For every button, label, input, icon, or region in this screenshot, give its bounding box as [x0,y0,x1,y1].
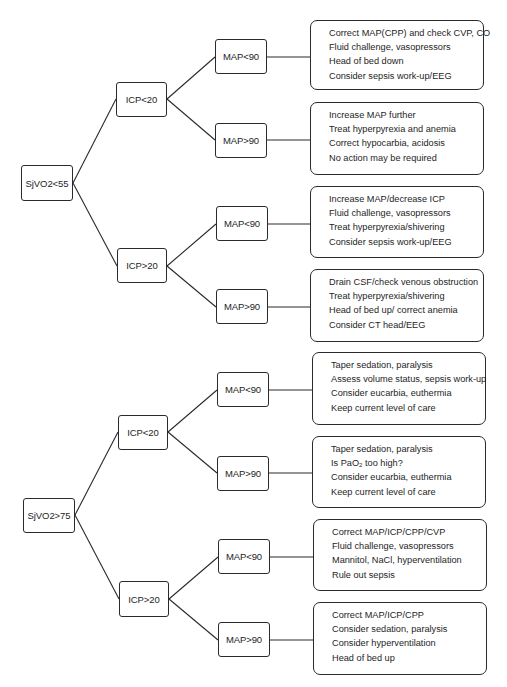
action-item: Consider sedation, paralysis [332,622,486,636]
node-label: MAP>90 [223,135,259,146]
node-label: ICP<20 [126,94,157,105]
root-node-sjvo2-low: SjVO2<55 [21,165,73,201]
action-box: Correct MAP(CPP) and check CVP, CO Fluid… [310,20,484,90]
node-map-low: MAP<90 [216,206,268,241]
action-item: Taper sedation, paralysis [331,442,485,456]
node-label: MAP<90 [226,551,262,562]
action-item: Consider eucarbia, euthermia [331,386,485,400]
action-item: Assess volume status, sepsis work-up [331,372,485,386]
node-label: ICP>20 [128,594,159,605]
node-label: SjVO2>75 [28,510,71,521]
action-item: Head of bed up/ correct anemia [329,303,483,317]
action-item: Consider sepsis work-up/EEG [329,69,483,83]
action-box: Correct MAP/ICP/CPP Consider sedation, p… [313,602,487,675]
action-item-pao2: Is PaO2 too high? [331,456,485,470]
action-item: Consider sepsis work-up/EEG [329,235,483,249]
node-map-high: MAP>90 [218,622,270,657]
action-box: Taper sedation, paralysis Is PaO2 too hi… [312,436,486,508]
node-label: MAP>90 [224,301,260,312]
node-label: MAP<90 [223,51,259,62]
action-item: No action may be required [329,151,483,165]
action-item: Keep current level of care [331,485,485,499]
action-item: Mannitol, NaCl, hyperventilation [332,553,486,567]
node-map-high: MAP>90 [216,289,268,324]
node-map-low: MAP<90 [217,372,269,407]
action-item: Increase MAP/decrease ICP [329,192,483,206]
node-map-low: MAP<90 [215,39,267,74]
action-item: Correct MAP/ICP/CPP [332,608,486,622]
action-item: Rule out sepsis [332,568,486,582]
node-label: MAP<90 [224,218,260,229]
action-item: Correct hypocarbia, acidosis [329,136,483,150]
action-item: Keep current level of care [331,401,485,415]
action-box: Correct MAP/ICP/CPP/CVP Fluid challenge,… [313,519,487,591]
node-icp-high: ICP>20 [119,581,169,617]
node-label: MAP>90 [225,468,261,479]
action-item: Head of bed down [329,54,483,68]
action-box: Increase MAP/decrease ICP Fluid challeng… [310,186,484,258]
node-label: MAP<90 [225,384,261,395]
node-label: ICP>20 [126,260,157,271]
action-item: Consider CT head/EEG [329,318,483,332]
node-map-high: MAP>90 [217,456,269,491]
action-item: Consider hyperventilation [332,636,486,650]
action-item: Head of bed up [332,651,486,665]
action-item: Fluid challenge, vasopressors [332,539,486,553]
action-item: Treat hyperpyrexia/shivering [329,289,483,303]
node-icp-high: ICP>20 [117,248,167,283]
action-item: Correct MAP/ICP/CPP/CVP [332,525,486,539]
action-box: Increase MAP further Treat hyperpyrexia … [310,102,484,175]
action-item: Fluid challenge, vasopressors [329,40,483,54]
action-item: Drain CSF/check venous obstruction [329,275,483,289]
action-item: Consider eucarbia, euthermia [331,470,485,484]
action-item: Fluid challenge, vasopressors [329,206,483,220]
node-icp-low: ICP<20 [116,82,167,117]
action-item: Taper sedation, paralysis [331,358,485,372]
node-map-low: MAP<90 [218,539,270,574]
node-map-high: MAP>90 [215,123,267,158]
root-node-sjvo2-high: SjVO2>75 [23,498,75,533]
node-label: SjVO2<55 [26,178,69,189]
node-icp-low: ICP<20 [118,415,168,450]
pao2-text: Is PaO [331,458,359,468]
action-box: Drain CSF/check venous obstruction Treat… [310,269,484,342]
pao2-text-rest: too high? [362,458,402,468]
action-item: Correct MAP(CPP) and check CVP, CO [329,26,483,40]
action-item: Increase MAP further [329,108,483,122]
node-label: ICP<20 [127,427,158,438]
node-label: MAP>90 [226,634,262,645]
action-item: Treat hyperpyrexia/shivering [329,220,483,234]
action-box: Taper sedation, paralysis Assess volume … [312,352,486,425]
action-item: Treat hyperpyrexia and anemia [329,122,483,136]
